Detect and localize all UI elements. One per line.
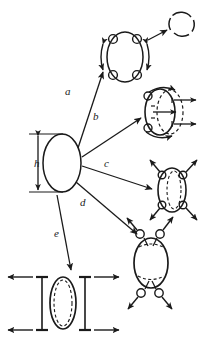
node-d-satellite-top-left — [136, 230, 144, 238]
node-d-ellipse — [134, 238, 168, 288]
node-d-arrow-up-right — [163, 217, 173, 230]
node-d-satellite-top-right — [156, 230, 164, 238]
node-d-satellite-bottom-left — [137, 289, 145, 297]
node-e-inner-dashed — [54, 280, 72, 326]
dashed-arc-left — [169, 18, 170, 30]
branch-label-a: a — [65, 86, 71, 97]
dashed-arc-top — [173, 12, 192, 17]
node-e-group — [8, 277, 119, 330]
height-label-h: h — [34, 158, 40, 169]
branch-arrow-b — [82, 118, 141, 157]
dashed-arc-bottom — [174, 33, 189, 36]
node-c-arrow-down-left — [150, 208, 160, 220]
branch-label-e: e — [54, 228, 59, 239]
node-a-left-motion-arrow — [101, 44, 103, 70]
node-d-satellite-bottom-right — [155, 289, 163, 297]
node-a-ellipse — [107, 32, 143, 82]
node-a-right-motion-arrow — [147, 44, 149, 70]
node-d-arrow-up-left — [127, 218, 137, 230]
diagram-canvas — [0, 0, 206, 347]
node-c-arrow-up-right — [186, 160, 197, 172]
branch-arrow-c — [82, 166, 152, 189]
branch-arrow-a — [78, 72, 103, 148]
dashed-arc-right — [192, 20, 194, 32]
node-a-followup-arrow — [148, 30, 167, 40]
branch-arrow-d — [76, 182, 137, 234]
branch-label-c: c — [104, 158, 109, 169]
node-c-arrow-up-left — [150, 160, 160, 172]
node-c-ellipse — [158, 168, 186, 212]
node-c-group — [150, 160, 197, 220]
node-a-group — [101, 12, 194, 82]
parent-ellipse — [43, 134, 81, 192]
node-a-dashed-circle — [169, 12, 194, 36]
node-d-arrow-down-right — [162, 297, 172, 309]
node-c-arrow-down-right — [186, 208, 197, 220]
node-d-arrow-down-left — [128, 297, 138, 309]
node-b-group — [144, 87, 196, 137]
diagram-root: h a b c d e — [0, 0, 206, 347]
node-d-inner-arc-bottom — [138, 276, 164, 280]
branch-arrows — [57, 72, 152, 270]
branch-arrow-e — [57, 195, 71, 270]
branch-label-b: b — [93, 111, 99, 122]
branch-label-d: d — [80, 197, 86, 208]
node-d-inner-arc-top — [139, 244, 163, 247]
